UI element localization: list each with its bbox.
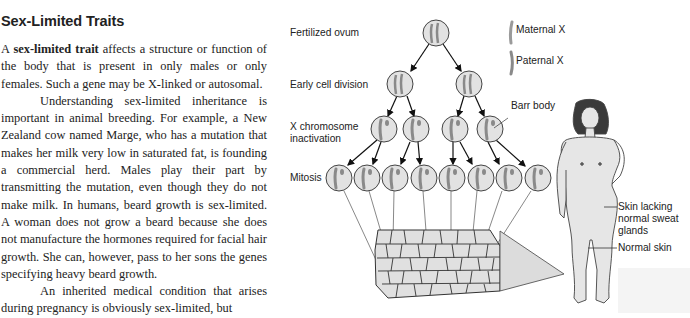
label-mitosis: Mitosis xyxy=(290,172,322,184)
legend-paternal-x: Paternal X xyxy=(516,55,564,67)
label-x-chromosome: X chromosome xyxy=(290,121,359,133)
division-arrows xyxy=(348,44,525,166)
callout-skin-lacking-3: glands xyxy=(618,225,648,237)
legend-maternal-x: Maternal X xyxy=(516,24,565,36)
inactivation-cell xyxy=(403,116,429,142)
inactivation-cell xyxy=(442,116,468,142)
magnification-wedge xyxy=(500,231,564,291)
inactivation-cell xyxy=(371,116,397,142)
tissue-patch xyxy=(375,230,500,298)
early-division-cell xyxy=(387,71,413,97)
callout-skin-lacking-2: normal sweat xyxy=(618,213,679,225)
callout-skin-lacking-1: Skin lacking xyxy=(618,201,672,213)
maternal-x-icon xyxy=(510,22,512,43)
label-fertilized-ovum: Fertilized ovum xyxy=(290,27,359,39)
callout-barr-body: Barr body xyxy=(511,100,555,112)
callout-normal-skin: Normal skin xyxy=(618,242,672,254)
label-early-cell-division: Early cell division xyxy=(290,79,368,91)
mitosis-cells xyxy=(326,165,551,191)
woman-figure xyxy=(557,99,624,303)
early-division-cell xyxy=(456,71,482,97)
inactivation-cell xyxy=(477,116,503,142)
paternal-x-icon xyxy=(511,52,513,74)
label-inactivation: inactivation xyxy=(290,133,341,145)
fertilized-ovum-cell xyxy=(423,20,449,46)
background-patch xyxy=(618,268,690,313)
